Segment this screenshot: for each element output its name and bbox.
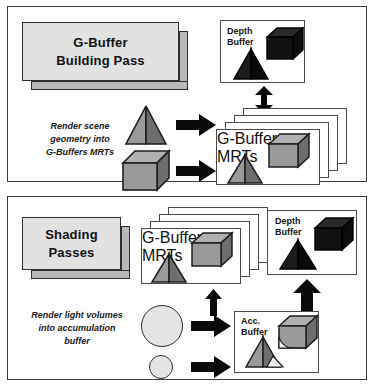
note-render-light-volumes: Render light volumes into accumulation b…	[16, 309, 138, 348]
large-light-circle	[141, 305, 183, 347]
slab-face: G-Buffer Building Pass	[22, 22, 179, 81]
gray-pyramid	[225, 154, 265, 186]
arrow-large-light-to-acc-icon	[191, 315, 231, 337]
lit-pyramid	[243, 336, 287, 370]
input-gray-cube	[121, 149, 171, 193]
buffer-g-buffer-mrts-top: G-Buffer MRTs	[215, 108, 363, 180]
label-slab-g-buffer-building-pass: G-Buffer Building Pass	[22, 22, 188, 90]
arrow-acc-to-depth-icon	[293, 279, 321, 313]
arrow-acc-to-mrts-icon	[205, 289, 222, 316]
input-gray-pyramid	[123, 104, 169, 148]
arrow-pyramid-to-mrts-icon	[176, 114, 216, 136]
acc-buffer-caption: Acc. Buffer	[241, 316, 268, 338]
mrt-stack-card-1: G-Buffer MRTs	[216, 129, 320, 185]
buffer-depth-buffer-top: Depth Buffer	[220, 20, 305, 83]
panel-shading-passes: Shading Passes Render light volumes into…	[7, 196, 367, 380]
slab-side-bottom	[31, 81, 188, 90]
arrow-small-light-to-acc-icon	[191, 356, 231, 378]
panel-g-buffer-building-pass: G-Buffer Building Pass Render scene geom…	[7, 6, 367, 182]
shading-passes-label: Shading Passes	[45, 226, 98, 261]
buffer-depth-buffer-bottom: Depth Buffer	[267, 210, 357, 275]
slab-face: Shading Passes	[22, 217, 121, 270]
black-cube	[265, 26, 305, 62]
gray-pyramid	[149, 253, 189, 285]
mrt-stack-card-1: G-Buffer MRTs	[141, 228, 241, 284]
gray-cube	[267, 132, 311, 170]
arrow-cube-to-mrts-icon	[176, 160, 216, 182]
depth-buffer-top-caption: Depth Buffer	[227, 26, 254, 48]
note-render-scene-geometry: Render scene geometry into G-Buffers MRT…	[26, 120, 134, 159]
black-cube	[313, 216, 355, 253]
buffer-acc-buffer: Acc. Buffer	[234, 311, 319, 373]
depth-buffer-bottom-caption: Depth Buffer	[275, 216, 302, 238]
small-light-circle	[149, 355, 173, 379]
buffer-g-buffer-mrts-bottom: G-Buffer MRTs	[141, 207, 281, 287]
g-buffer-building-pass-label: G-Buffer Building Pass	[56, 34, 145, 69]
slab-side-bottom	[31, 270, 130, 279]
black-pyramid	[277, 238, 319, 272]
gray-cube	[190, 231, 234, 269]
black-pyramid	[231, 47, 271, 82]
label-slab-shading-passes: Shading Passes	[22, 217, 130, 279]
